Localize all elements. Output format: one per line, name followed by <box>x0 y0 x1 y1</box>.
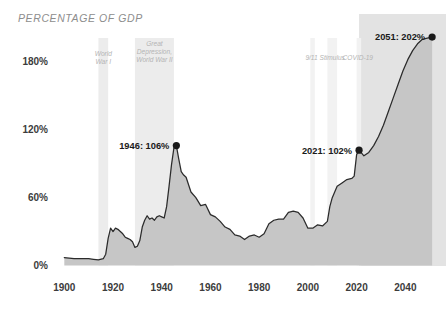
chart-title: PERCENTAGE OF GDP <box>18 12 143 24</box>
event-label-9-11: 9/11 <box>305 54 318 61</box>
annotation-2051-dot <box>429 33 436 40</box>
annotation-1946-dot <box>173 142 180 149</box>
x-tick-2040: 2040 <box>394 282 417 293</box>
x-tick-1960: 1960 <box>199 282 222 293</box>
x-tick-1980: 1980 <box>248 282 271 293</box>
y-tick-120pct: 120% <box>22 124 48 135</box>
y-tick-60pct: 60% <box>28 192 48 203</box>
y-tick-0pct: 0% <box>34 260 49 271</box>
annotation-2051-label: 2051: 202% <box>375 32 426 42</box>
x-tick-1940: 1940 <box>151 282 174 293</box>
annotation-1946-label: 1946: 106% <box>119 141 170 151</box>
event-label-covid-19: COVID-19 <box>343 54 374 61</box>
x-tick-1900: 1900 <box>53 282 76 293</box>
y-tick-180pct: 180% <box>22 56 48 67</box>
chart-root: PERCENTAGE OF GDP 0%60%120%180% WorldWar… <box>0 0 446 312</box>
event-band-world-war-i <box>98 38 108 266</box>
annotation-2021-dot <box>355 147 362 154</box>
x-tick-2020: 2020 <box>345 282 368 293</box>
event-label-world-war-i: WorldWar I <box>95 50 113 65</box>
x-tick-1920: 1920 <box>102 282 125 293</box>
annotation-2021-label: 2021: 102% <box>302 146 353 156</box>
x-tick-2000: 2000 <box>297 282 320 293</box>
debt-to-gdp-area-chart: PERCENTAGE OF GDP 0%60%120%180% WorldWar… <box>0 0 446 312</box>
